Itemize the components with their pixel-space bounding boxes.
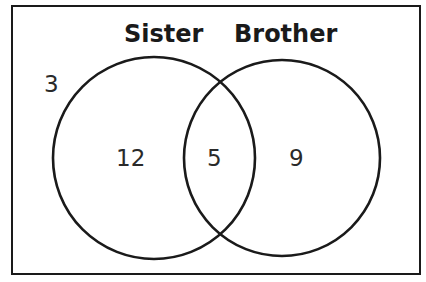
intersection-count: 5 <box>207 145 222 171</box>
outside-count: 3 <box>44 71 59 97</box>
venn-diagram: Sister Brother 3 12 5 9 <box>0 0 426 282</box>
sister-label: Sister <box>124 20 204 48</box>
brother-label: Brother <box>234 20 337 48</box>
sister-only-count: 12 <box>116 145 145 171</box>
brother-only-count: 9 <box>289 145 304 171</box>
sister-circle <box>53 57 255 259</box>
